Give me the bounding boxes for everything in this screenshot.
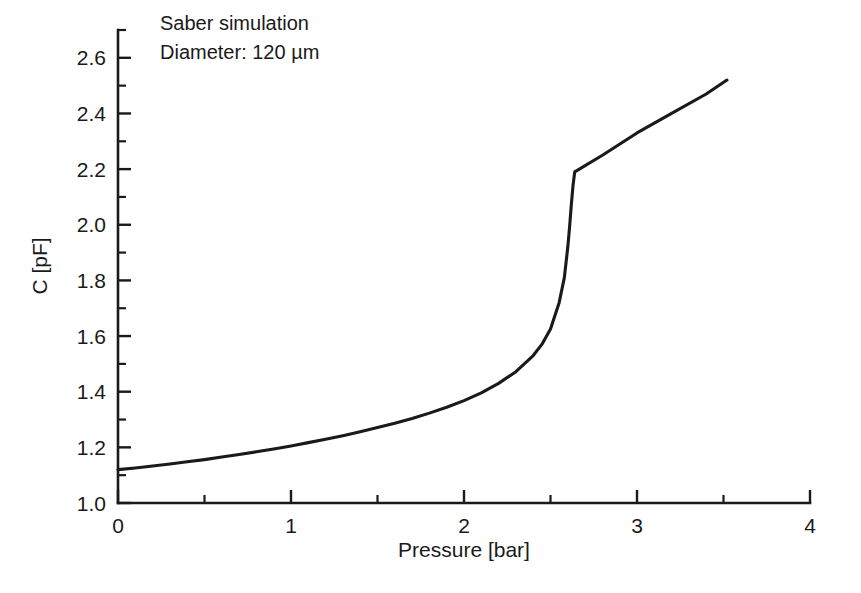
x-axis-title: Pressure [bar] [398, 538, 530, 561]
x-axis-tick-labels: 01234 [112, 514, 816, 537]
annotation-group: Saber simulation Diameter: 120 µm [160, 12, 319, 63]
y-tick-label: 1.4 [77, 380, 107, 403]
y-axis-tick-labels: 1.01.21.41.61.82.02.22.42.6 [77, 46, 107, 514]
y-tick-label: 2.4 [77, 102, 107, 125]
y-tick-label: 1.2 [77, 436, 106, 459]
x-tick-label: 1 [285, 514, 297, 537]
y-tick-label: 2.6 [77, 46, 106, 69]
y-axis-ticks [118, 30, 131, 503]
y-axis-title: C [pF] [28, 237, 51, 294]
y-tick-label: 1.8 [77, 269, 106, 292]
axis-lines [118, 30, 810, 503]
annotation-line-2: Diameter: 120 µm [160, 41, 319, 63]
x-tick-label: 4 [804, 514, 816, 537]
x-axis-ticks [118, 490, 810, 503]
annotation-line-1: Saber simulation [160, 12, 309, 34]
y-tick-label: 1.6 [77, 325, 106, 348]
chart-figure: Saber simulation Diameter: 120 µm 1.01.2… [0, 0, 861, 593]
chart-plot-area: Saber simulation Diameter: 120 µm 1.01.2… [0, 0, 861, 593]
x-tick-label: 3 [631, 514, 643, 537]
y-tick-label: 2.0 [77, 213, 106, 236]
y-tick-label: 1.0 [77, 492, 106, 515]
data-curve-c-vs-pressure [118, 80, 727, 470]
x-tick-label: 0 [112, 514, 124, 537]
x-tick-label: 2 [458, 514, 470, 537]
y-tick-label: 2.2 [77, 158, 106, 181]
